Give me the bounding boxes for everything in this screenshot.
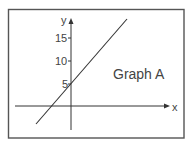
tick-label-15: 15: [55, 32, 67, 44]
y-axis-label: y: [61, 14, 67, 26]
tick-label-10: 10: [55, 55, 67, 67]
x-axis-label: x: [172, 101, 178, 113]
graph-title: Graph A: [113, 66, 165, 82]
graph-a-diagram: x y 15 10 5 Graph A: [0, 0, 191, 151]
